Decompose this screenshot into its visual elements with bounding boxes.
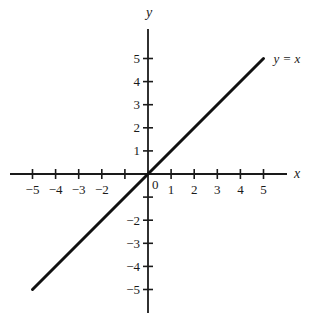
x-axis-label: x	[293, 166, 301, 181]
y-tick-label: −4	[126, 259, 140, 274]
y-tick-label: 5	[134, 51, 141, 66]
y-tick-label: −3	[126, 236, 140, 251]
x-tick-label: 2	[191, 182, 198, 197]
line-annotation: y = x	[272, 51, 301, 66]
y-tick-label: 2	[134, 120, 141, 135]
x-tick-label: −4	[49, 182, 63, 197]
y-tick-label: 3	[134, 97, 141, 112]
y-tick-label: −5	[126, 282, 140, 297]
x-tick-label: 4	[237, 182, 244, 197]
cartesian-plot: −5−4−3−2123450−5−4−3−212345 x y y = x	[0, 0, 313, 329]
y-tick-label: −2	[126, 213, 140, 228]
x-tick-label: −5	[26, 182, 40, 197]
y-tick-label: 4	[134, 74, 141, 89]
x-tick-label: 3	[214, 182, 221, 197]
x-tick-label: −3	[72, 182, 86, 197]
x-tick-label: −2	[95, 182, 109, 197]
x-tick-label: 5	[260, 182, 267, 197]
origin-label: 0	[152, 177, 159, 192]
x-tick-label: 1	[168, 182, 175, 197]
y-tick-label: 1	[134, 143, 141, 158]
y-axis-label: y	[144, 5, 153, 20]
